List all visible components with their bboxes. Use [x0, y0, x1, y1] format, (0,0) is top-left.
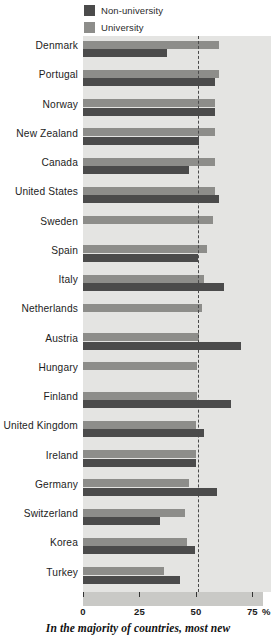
chart-row: Finland: [0, 387, 276, 416]
category-label: Austria: [0, 333, 78, 344]
legend-swatch-non-university: [84, 5, 95, 16]
category-label: Sweden: [0, 216, 78, 227]
bar-group: [83, 245, 276, 265]
category-label: New Zealand: [0, 128, 78, 139]
category-label: Switzerland: [0, 508, 78, 519]
bar-group: [83, 128, 276, 148]
bar-university: [83, 187, 215, 195]
chart-row: Netherlands: [0, 299, 276, 328]
bar-group: [83, 479, 276, 499]
category-label: Portugal: [0, 69, 78, 80]
bar-group: [83, 509, 276, 529]
bar-group: [83, 333, 276, 353]
legend-item-non-university: Non-university: [84, 3, 163, 17]
bar-group: [83, 392, 276, 412]
bar-university: [83, 362, 197, 370]
legend-item-university: University: [84, 20, 163, 34]
bar-non-university: [83, 78, 215, 86]
category-label: Germany: [0, 479, 78, 490]
chart-row: Canada: [0, 153, 276, 182]
category-label: United Kingdom: [0, 420, 78, 431]
bar-university: [83, 450, 196, 458]
bar-group: [83, 421, 276, 441]
bar-non-university: [83, 108, 215, 116]
category-label: Korea: [0, 537, 78, 548]
bar-university: [83, 304, 202, 312]
bar-university: [83, 421, 196, 429]
legend-label-non-university: Non-university: [101, 5, 163, 16]
bar-university: [83, 128, 215, 136]
bar-university: [83, 216, 213, 224]
category-label: Finland: [0, 391, 78, 402]
chart-row: United States: [0, 182, 276, 211]
category-label: Denmark: [0, 40, 78, 51]
bar-group: [83, 70, 276, 90]
bar-non-university: [83, 342, 241, 350]
legend-label-university: University: [101, 22, 144, 33]
bar-university: [83, 538, 187, 546]
bar-chart: Non-university University DenmarkPortuga…: [0, 0, 276, 643]
x-axis-tick: [139, 592, 140, 597]
bar-non-university: [83, 166, 189, 174]
chart-row: Austria: [0, 329, 276, 358]
bar-group: [83, 216, 276, 236]
bar-university: [83, 245, 207, 253]
bar-group: [83, 450, 276, 470]
bar-group: [83, 538, 276, 558]
chart-caption: In the majority of countries, most new: [0, 622, 276, 634]
bar-group: [83, 275, 276, 295]
x-axis-tick-label: 75: [247, 606, 258, 617]
category-label: Turkey: [0, 567, 78, 578]
bar-non-university: [83, 459, 196, 467]
bar-group: [83, 99, 276, 119]
bar-university: [83, 509, 185, 517]
chart-row: Korea: [0, 533, 276, 562]
bar-university: [83, 333, 199, 341]
category-label: Italy: [0, 274, 78, 285]
category-label: Spain: [0, 245, 78, 256]
chart-row: Norway: [0, 95, 276, 124]
bar-group: [83, 158, 276, 178]
chart-row: Germany: [0, 475, 276, 504]
bar-non-university: [83, 576, 180, 584]
bar-group: [83, 187, 276, 207]
bar-non-university: [83, 137, 199, 145]
legend-swatch-university: [84, 22, 95, 33]
bar-university: [83, 479, 189, 487]
chart-row: United Kingdom: [0, 416, 276, 445]
bar-non-university: [83, 49, 167, 57]
chart-legend: Non-university University: [84, 3, 163, 37]
chart-row: Ireland: [0, 446, 276, 475]
bar-university: [83, 158, 215, 166]
x-axis-tick-label: 25: [134, 606, 145, 617]
bar-non-university: [83, 517, 160, 525]
chart-row: Italy: [0, 270, 276, 299]
category-label: Canada: [0, 157, 78, 168]
x-axis-tick: [83, 592, 84, 597]
chart-row: Denmark: [0, 36, 276, 65]
bar-non-university: [83, 429, 204, 437]
chart-rows: DenmarkPortugalNorwayNew ZealandCanadaUn…: [0, 36, 276, 592]
x-axis-unit-label: %: [262, 606, 270, 617]
reference-line-50: [198, 36, 199, 592]
category-label: Hungary: [0, 362, 78, 373]
chart-row: Turkey: [0, 563, 276, 592]
category-label: Netherlands: [0, 303, 78, 314]
bar-non-university: [83, 400, 231, 408]
chart-row: New Zealand: [0, 124, 276, 153]
bar-group: [83, 362, 276, 382]
category-label: Ireland: [0, 450, 78, 461]
x-axis-band: [83, 592, 249, 606]
chart-row: Hungary: [0, 358, 276, 387]
chart-row: Switzerland: [0, 504, 276, 533]
bar-university: [83, 567, 164, 575]
x-axis-band-extension: [249, 592, 263, 606]
bar-non-university: [83, 254, 198, 262]
x-axis-tick: [196, 592, 197, 597]
bar-non-university: [83, 283, 224, 291]
chart-row: Sweden: [0, 212, 276, 241]
x-axis-tick-label: 0: [80, 606, 85, 617]
x-axis-tick-label: 50: [190, 606, 201, 617]
bar-group: [83, 41, 276, 61]
bar-group: [83, 304, 276, 324]
